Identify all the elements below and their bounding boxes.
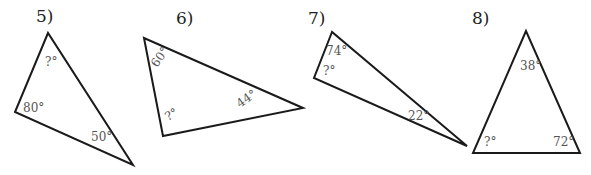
angle-label-left: ?° (323, 64, 335, 78)
angle-label-bottom-right: 72° (553, 135, 574, 149)
angle-label-left: 80° (23, 101, 44, 115)
angle-label-bottom: ?° (163, 105, 181, 123)
problem-number: 8) (472, 8, 489, 28)
angle-label-bottom-left: ?° (484, 135, 496, 149)
problem-number: 6) (176, 8, 193, 28)
worksheet-canvas: 5) ?° 80° 50° 6) 60° ?° 44° 7) 74° ?° 22… (0, 0, 591, 175)
problem-5: 5) ?° 80° 50° (15, 6, 133, 165)
triangle-shape (15, 33, 133, 165)
angle-label-bottom-right: 22° (408, 109, 429, 123)
problem-number: 7) (308, 8, 325, 28)
angle-label-bottom-right: 50° (91, 130, 112, 144)
angle-label-top: 38° (520, 59, 541, 73)
problem-8: 8) 38° ?° 72° (472, 8, 580, 153)
problem-7: 7) 74° ?° 22° (308, 8, 467, 146)
angle-label-right: 44° (234, 87, 259, 111)
angle-label-top: 74° (326, 44, 347, 58)
problem-number: 5) (36, 6, 53, 26)
angle-label-top: ?° (45, 55, 57, 69)
problem-6: 6) 60° ?° 44° (144, 8, 303, 136)
